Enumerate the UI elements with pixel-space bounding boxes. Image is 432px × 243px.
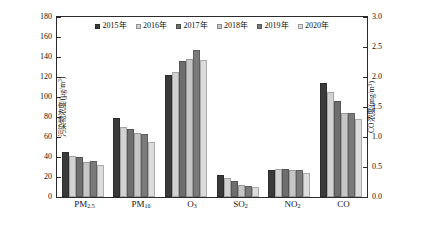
bar-O3-2017年 bbox=[179, 61, 186, 197]
bar-series-container bbox=[57, 17, 367, 197]
bar-NO2-2017年 bbox=[282, 169, 289, 197]
x-axis-label-CO: CO bbox=[337, 200, 350, 209]
bar-CO-2016年 bbox=[327, 92, 334, 197]
y-tick-label-left: 0 bbox=[48, 193, 52, 201]
x-axis-label-NO2: NO2 bbox=[285, 200, 301, 209]
bar-group-PM2.5 bbox=[62, 17, 104, 197]
y-tick-label-left: 160 bbox=[40, 33, 52, 41]
bar-group-O3 bbox=[165, 17, 207, 197]
y-tick-label-left: 20 bbox=[44, 173, 52, 181]
bar-PM2.5-2019年 bbox=[90, 161, 97, 197]
chart-figure: 污染物浓度/(μg/m3) CO浓度/(mg/m3) 0204060801001… bbox=[0, 0, 432, 243]
y-tick-label-left: 60 bbox=[44, 133, 52, 141]
y-tick-label-right: 0.5 bbox=[372, 163, 382, 171]
bar-PM10-2018年 bbox=[134, 133, 141, 197]
y-tick-label-left: 120 bbox=[40, 73, 52, 81]
bar-NO2-2019年 bbox=[296, 170, 303, 197]
bar-SO2-2017年 bbox=[231, 181, 238, 197]
bar-CO-2020年 bbox=[355, 119, 362, 197]
y-tick-left bbox=[57, 197, 61, 198]
x-axis-category-labels: PM2.5PM10O3SO2NO2CO bbox=[56, 200, 368, 216]
bar-PM2.5-2015年 bbox=[62, 152, 69, 197]
plot-area: 污染物浓度/(μg/m3) CO浓度/(mg/m3) 0204060801001… bbox=[56, 16, 368, 198]
bar-group-PM10 bbox=[113, 17, 155, 197]
bar-group-NO2 bbox=[268, 17, 310, 197]
y-tick-label-right: 2.0 bbox=[372, 73, 382, 81]
x-axis-label-O3: O3 bbox=[187, 200, 197, 209]
y-tick-label-right: 1.5 bbox=[372, 103, 382, 111]
bar-O3-2018年 bbox=[186, 59, 193, 197]
bar-O3-2015年 bbox=[165, 75, 172, 197]
bar-PM10-2020年 bbox=[148, 142, 155, 197]
bar-CO-2017年 bbox=[334, 101, 341, 197]
bar-O3-2020年 bbox=[200, 60, 207, 197]
x-axis-label-PM10: PM10 bbox=[132, 200, 151, 209]
y-tick-label-left: 100 bbox=[40, 93, 52, 101]
x-axis-label-SO2: SO2 bbox=[233, 200, 248, 209]
bar-SO2-2020年 bbox=[252, 187, 259, 197]
y-tick-label-right: 3.0 bbox=[372, 13, 382, 21]
bar-PM2.5-2018年 bbox=[83, 162, 90, 197]
bar-NO2-2015年 bbox=[268, 170, 275, 197]
bar-CO-2018年 bbox=[341, 113, 348, 197]
bar-PM10-2015年 bbox=[113, 118, 120, 197]
bar-PM2.5-2016年 bbox=[69, 156, 76, 197]
y-tick-label-left: 40 bbox=[44, 153, 52, 161]
y-tick-label-left: 80 bbox=[44, 113, 52, 121]
y-tick-label-right: 2.5 bbox=[372, 43, 382, 51]
y-tick-label-left: 140 bbox=[40, 53, 52, 61]
bar-CO-2019年 bbox=[348, 113, 355, 197]
bar-PM10-2016年 bbox=[120, 127, 127, 197]
bar-group-CO bbox=[320, 17, 362, 197]
bar-SO2-2018年 bbox=[238, 185, 245, 197]
bar-group-SO2 bbox=[217, 17, 259, 197]
bar-CO-2015年 bbox=[320, 83, 327, 197]
bar-PM2.5-2020年 bbox=[97, 165, 104, 197]
bar-O3-2016年 bbox=[172, 72, 179, 197]
y-tick-label-left: 180 bbox=[40, 13, 52, 21]
bar-PM2.5-2017年 bbox=[76, 157, 83, 197]
y-tick-label-right: 1.0 bbox=[372, 133, 382, 141]
bar-NO2-2018年 bbox=[289, 170, 296, 197]
y-tick-right bbox=[363, 197, 367, 198]
bar-PM10-2019年 bbox=[141, 134, 148, 197]
bar-SO2-2015年 bbox=[217, 175, 224, 197]
y-tick-label-right: 0.0 bbox=[372, 193, 382, 201]
bar-SO2-2016年 bbox=[224, 178, 231, 197]
bar-NO2-2020年 bbox=[303, 173, 310, 197]
bar-PM10-2017年 bbox=[127, 129, 134, 197]
bar-NO2-2016年 bbox=[275, 169, 282, 197]
x-axis-label-PM2.5: PM2.5 bbox=[74, 200, 95, 209]
bar-O3-2019年 bbox=[193, 50, 200, 197]
bar-SO2-2019年 bbox=[245, 186, 252, 197]
